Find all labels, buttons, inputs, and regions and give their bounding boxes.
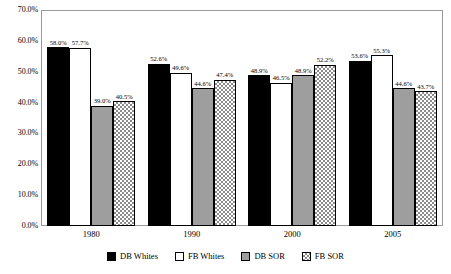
legend-item[interactable]: FB Whites (175, 252, 224, 261)
y-axis-tick-label: 60.0% (0, 37, 38, 45)
y-axis: 0.0%10.0%20.0%30.0%40.0%50.0%60.0%70.0% (0, 10, 38, 226)
y-axis-tick-label: 40.0% (0, 99, 38, 107)
y-axis-tick-label: 30.0% (0, 129, 38, 137)
bar[interactable] (292, 75, 314, 226)
bar-value-label: 55.3% (365, 47, 399, 54)
legend-item[interactable]: FB SOR (302, 252, 344, 261)
bar[interactable] (91, 106, 113, 226)
legend-swatch-icon (175, 252, 184, 261)
bar-cluster: 53.6%55.3%44.6%43.7% (349, 10, 437, 226)
bar-value-label: 57.7% (63, 39, 97, 46)
x-axis-tick-label: 1980 (41, 229, 142, 239)
legend-label: DB Whites (120, 252, 158, 261)
bar[interactable] (148, 64, 170, 226)
bar[interactable] (170, 73, 192, 226)
legend-item[interactable]: DB SOR (241, 252, 284, 261)
bar[interactable] (314, 65, 336, 226)
bars-layer: 58.0%57.7%39.0%40.5%52.6%49.6%44.6%47.4%… (41, 10, 443, 226)
bar-cluster: 58.0%57.7%39.0%40.5% (47, 10, 135, 226)
bar-cluster: 48.9%46.5%48.9%52.2% (248, 10, 336, 226)
bar[interactable] (192, 88, 214, 226)
y-axis-tick-label: 50.0% (0, 68, 38, 76)
x-axis-tick-label: 2005 (343, 229, 444, 239)
bar[interactable] (47, 47, 69, 226)
y-axis-tick-label: 20.0% (0, 160, 38, 168)
bar-value-label: 52.6% (142, 55, 176, 62)
bar[interactable] (393, 88, 415, 226)
x-axis-tick-label: 2000 (242, 229, 343, 239)
x-axis-tick-label: 1990 (142, 229, 243, 239)
legend-label: FB SOR (315, 252, 344, 261)
bar[interactable] (69, 48, 91, 226)
legend-label: FB Whites (188, 252, 224, 261)
bar[interactable] (349, 61, 371, 226)
bar-value-label: 40.5% (107, 93, 141, 100)
x-axis: 1980199020002005 (41, 229, 443, 243)
bar-value-label: 49.6% (164, 64, 198, 71)
legend-swatch-icon (107, 252, 116, 261)
bar[interactable] (270, 83, 292, 226)
legend-swatch-icon (241, 252, 250, 261)
y-axis-tick-label: 0.0% (0, 222, 38, 230)
bar-value-label: 48.9% (242, 67, 276, 74)
legend-item[interactable]: DB Whites (107, 252, 158, 261)
bar[interactable] (415, 91, 437, 226)
bar[interactable] (113, 101, 135, 226)
bar-cluster: 52.6%49.6%44.6%47.4% (148, 10, 236, 226)
bar[interactable] (248, 75, 270, 226)
y-axis-tick-label: 10.0% (0, 191, 38, 199)
bar-value-label: 43.7% (409, 83, 443, 90)
bar-value-label: 52.2% (308, 56, 342, 63)
bar-value-label: 47.4% (208, 71, 242, 78)
legend-label: DB SOR (254, 252, 284, 261)
chart-legend: DB WhitesFB WhitesDB SORFB SOR (0, 252, 451, 261)
y-axis-tick-label: 70.0% (0, 6, 38, 14)
legend-swatch-icon (302, 252, 311, 261)
bar-chart: 0.0%10.0%20.0%30.0%40.0%50.0%60.0%70.0% … (0, 0, 451, 274)
bar[interactable] (214, 80, 236, 226)
